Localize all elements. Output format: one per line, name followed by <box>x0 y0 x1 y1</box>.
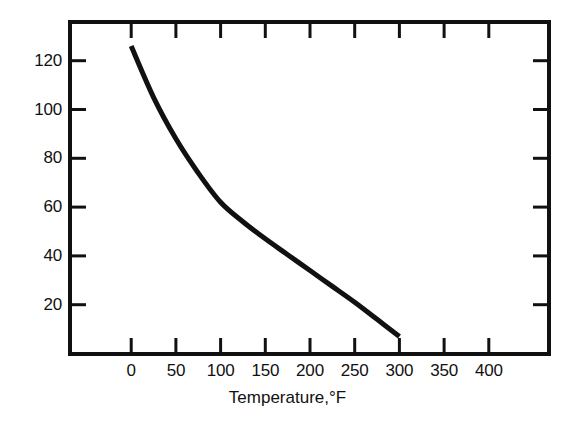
y-tick-label: 40 <box>10 246 62 266</box>
x-tick-label: 350 <box>430 361 458 381</box>
y-axis-ticks-right <box>533 61 549 305</box>
y-tick-label: 20 <box>10 295 62 315</box>
y-axis-ticks-left <box>70 61 86 305</box>
y-tick-label: 100 <box>10 100 62 120</box>
x-tick-label: 300 <box>386 361 414 381</box>
y-tick-label: 60 <box>10 197 62 217</box>
chart-figure: 120 100 80 60 40 20 0 50 100 150 200 250… <box>0 0 575 430</box>
x-tick-label: 200 <box>296 361 324 381</box>
x-tick-label: 400 <box>475 361 503 381</box>
x-tick-label: 100 <box>207 361 235 381</box>
y-tick-label: 120 <box>10 51 62 71</box>
data-series-line <box>131 46 399 336</box>
x-tick-label: 0 <box>127 361 136 381</box>
x-axis-ticks-bottom <box>131 338 489 354</box>
x-axis-ticks-top <box>131 22 489 38</box>
x-axis-title: Temperature,°F <box>0 388 575 408</box>
x-tick-label: 250 <box>341 361 369 381</box>
y-tick-label: 80 <box>10 148 62 168</box>
x-tick-label: 50 <box>167 361 186 381</box>
x-tick-label: 150 <box>251 361 279 381</box>
